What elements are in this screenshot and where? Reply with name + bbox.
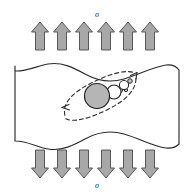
bottom-arrow-4	[98, 150, 115, 178]
bottom-arrow-group	[32, 150, 159, 178]
primary-inclusion	[85, 84, 110, 109]
void-growth-diagram: σ	[0, 0, 194, 193]
top-arrow-5	[120, 22, 137, 50]
bottom-stress-label: σ	[95, 181, 100, 190]
top-arrow-3	[76, 22, 93, 50]
figure-root: σ	[0, 0, 194, 193]
bottom-arrow-5	[120, 150, 137, 178]
top-arrow-1	[32, 22, 49, 50]
top-arrow-2	[54, 22, 71, 50]
top-arrow-group	[32, 22, 159, 50]
bottom-arrow-3	[76, 150, 93, 178]
top-arrow-6	[142, 22, 159, 50]
top-stress-label: σ	[95, 10, 100, 19]
bottom-arrow-2	[54, 150, 71, 178]
bottom-arrow-6	[142, 150, 159, 178]
bottom-arrow-1	[32, 150, 49, 178]
top-arrow-4	[98, 22, 115, 50]
void-2	[119, 80, 128, 89]
